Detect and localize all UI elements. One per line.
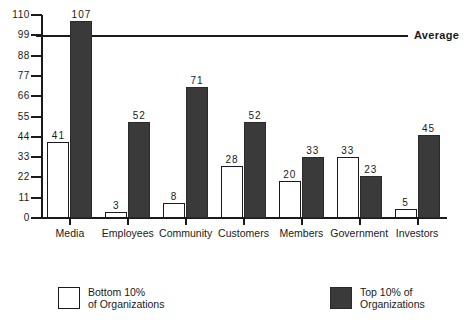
bar-value-label: 52 (133, 111, 146, 121)
y-axis-tick-label: 22 (18, 172, 30, 182)
y-axis-tick-labels: 0112233445566778899110 (0, 0, 30, 330)
x-axis-category-label: Community (159, 227, 212, 239)
y-axis-tick (31, 176, 42, 178)
legend-swatch-hollow-icon (58, 287, 80, 309)
bar-bottom[interactable]: 41 (47, 142, 69, 218)
legend-label-top-line2: Organizations (360, 298, 425, 310)
y-axis-tick (31, 14, 42, 16)
x-axis-category-label: Members (279, 227, 323, 239)
bar-top[interactable]: 52 (128, 122, 150, 218)
bar-bottom[interactable]: 8 (163, 203, 185, 218)
x-axis-tick (243, 217, 245, 225)
bar-value-label: 23 (364, 165, 377, 175)
x-axis-category-label: Investors (396, 227, 439, 239)
legend-label-bottom: Bottom 10% of Organizations (88, 286, 164, 310)
bar-value-label: 3 (113, 201, 120, 211)
bar-group: 352 (100, 15, 158, 218)
y-axis-tick (31, 217, 42, 219)
bar-top[interactable]: 23 (360, 176, 382, 218)
bar-value-label: 28 (225, 155, 238, 165)
bar-group: 2033 (273, 15, 331, 218)
y-axis-tick-label: 66 (18, 91, 30, 101)
y-axis-tick (31, 156, 42, 158)
bar-value-label: 20 (283, 170, 296, 180)
bar-top[interactable]: 33 (302, 157, 324, 218)
bar-value-label: 71 (191, 76, 204, 86)
y-axis-tick-label: 0 (24, 213, 30, 223)
legend-label-bottom-line2: of Organizations (88, 298, 164, 310)
bar-value-label: 107 (72, 10, 92, 20)
legend-label-top-line1: Top 10% of (360, 286, 425, 298)
bar-value-label: 45 (422, 124, 435, 134)
y-axis-tick (31, 95, 42, 97)
y-axis-tick (31, 136, 42, 138)
y-axis-tick (31, 197, 42, 199)
legend-label-bottom-line1: Bottom 10% (88, 286, 164, 298)
y-axis-tick (31, 75, 42, 77)
bar-bottom[interactable]: 3 (105, 212, 127, 218)
x-axis-tick (301, 217, 303, 225)
legend-swatch-filled-icon (330, 287, 352, 309)
bar-bottom[interactable]: 33 (337, 157, 359, 218)
bar-group: 871 (158, 15, 216, 218)
y-axis-tick-label: 11 (18, 193, 30, 203)
y-axis-tick-label: 99 (18, 30, 30, 40)
y-axis-tick-label: 33 (18, 152, 30, 162)
y-axis-tick (31, 116, 42, 118)
bar-chart: 0112233445566778899110 Average 411073528… (0, 0, 469, 330)
bar-top[interactable]: 71 (186, 87, 208, 218)
bar-value-label: 33 (306, 146, 319, 156)
x-axis-category-label: Customers (218, 227, 269, 239)
y-axis-tick (31, 55, 42, 57)
bar-value-label: 8 (171, 192, 178, 202)
bar-top[interactable]: 45 (418, 135, 440, 218)
plot-area: 41107352871285220333323545 (42, 15, 447, 218)
y-axis-tick-label: 44 (18, 132, 30, 142)
bar-group: 41107 (42, 15, 100, 218)
bar-group: 3323 (331, 15, 389, 218)
x-axis-tick (127, 217, 129, 225)
x-axis-tick (185, 217, 187, 225)
x-axis-tick (69, 217, 71, 225)
y-axis-tick-label: 110 (12, 10, 30, 20)
legend-label-top: Top 10% of Organizations (360, 286, 425, 310)
bar-value-label: 33 (341, 146, 354, 156)
legend-item-bottom-10-percent: Bottom 10% of Organizations (58, 286, 164, 310)
bar-value-label: 5 (402, 198, 409, 208)
bar-bottom[interactable]: 5 (395, 209, 417, 218)
y-axis-tick-label: 88 (18, 51, 30, 61)
bar-value-label: 41 (52, 131, 65, 141)
bar-group: 545 (389, 15, 447, 218)
x-axis-tick (417, 217, 419, 225)
x-axis-category-label: Employees (102, 227, 154, 239)
legend-item-top-10-percent: Top 10% of Organizations (330, 286, 425, 310)
bar-group: 2852 (216, 15, 274, 218)
bar-bottom[interactable]: 20 (279, 181, 301, 218)
x-axis-category-label: Government (330, 227, 388, 239)
y-axis-tick-label: 55 (18, 112, 30, 122)
bar-bottom[interactable]: 28 (221, 166, 243, 218)
x-axis-category-label: Media (56, 227, 85, 239)
x-axis-tick (359, 217, 361, 225)
bar-top[interactable]: 52 (244, 122, 266, 218)
y-axis-tick-label: 77 (18, 71, 30, 81)
bar-top[interactable]: 107 (70, 21, 92, 218)
bar-value-label: 52 (248, 111, 261, 121)
